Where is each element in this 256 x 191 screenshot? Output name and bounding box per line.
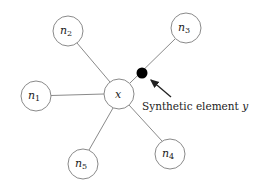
edge-x-n1 <box>51 94 104 96</box>
neighbor-node-n5: n5 <box>68 149 98 179</box>
edge-x-n5 <box>89 108 113 150</box>
synthetic-element-annotation: Synthetic element y <box>142 100 249 112</box>
synthetic-element-dot <box>137 68 148 79</box>
center-node-x: x <box>104 79 134 109</box>
arrow-icon <box>151 80 171 97</box>
center-node-label: x <box>115 88 122 101</box>
neighbor-node-n4: n4 <box>155 139 185 169</box>
neighbor-node-n3: n3 <box>171 13 201 43</box>
edge-x-n2 <box>77 43 110 82</box>
edge-x-n3 <box>130 39 175 83</box>
neighbor-node-n2: n2 <box>53 16 83 46</box>
neighbor-node-n1: n1 <box>21 81 51 111</box>
diagram-canvas: x n1 n2 n3 n4 n5 Synthetic element y <box>0 0 256 191</box>
